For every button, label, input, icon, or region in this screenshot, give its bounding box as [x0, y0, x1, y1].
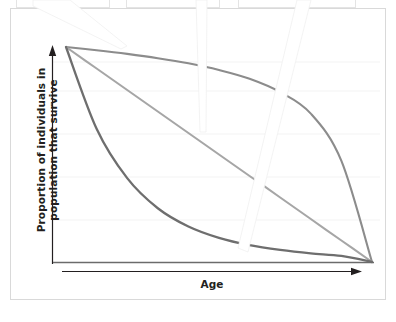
x-axis-label: Age	[52, 278, 372, 290]
y-axis-label-line-2: population that survive	[47, 40, 59, 260]
y-axis-label: Proportion of individuals in population …	[35, 40, 59, 260]
y-axis-label-line-1: Proportion of individuals in	[35, 40, 47, 260]
callout-leader-lines	[33, 0, 311, 252]
callout-leader-middle	[196, 0, 207, 132]
x-axis	[62, 268, 362, 275]
callout-leader-right	[238, 0, 311, 252]
survivorship-curves-figure: Proportion of individuals in population …	[0, 0, 396, 322]
chart-plot-area	[0, 0, 396, 322]
